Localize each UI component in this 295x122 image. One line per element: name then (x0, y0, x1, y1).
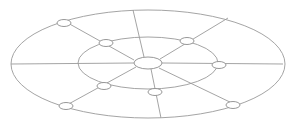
inner-node (148, 89, 162, 96)
radial-network-diagram (0, 0, 295, 122)
spoke-line (11, 63, 134, 64)
spoke-line (159, 68, 234, 104)
spoke-line (133, 10, 144, 57)
inner-node (212, 62, 226, 69)
outer-node (57, 20, 71, 27)
outer-node (59, 103, 73, 110)
center-node (134, 57, 162, 69)
center-group (134, 57, 162, 69)
inner-node (97, 83, 111, 90)
outer-node (226, 102, 240, 109)
inner-node (99, 40, 113, 47)
inner-node (180, 38, 194, 45)
